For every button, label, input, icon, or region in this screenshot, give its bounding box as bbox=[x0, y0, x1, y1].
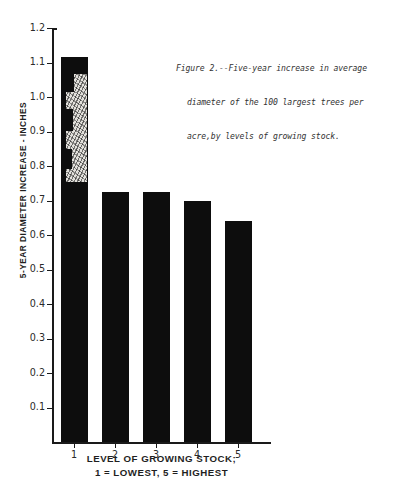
bar-1-defect-notch-b bbox=[66, 109, 73, 131]
y-tick-label: 0.3 bbox=[30, 332, 45, 343]
y-tick-label: 1.0 bbox=[30, 91, 45, 102]
y-tick-label: 0.2 bbox=[30, 367, 45, 378]
x-axis-title-line-1: LEVEL OF GROWING STOCK; bbox=[52, 452, 271, 466]
bar-level-2 bbox=[102, 192, 129, 442]
y-tick-label: 0.5 bbox=[30, 263, 45, 274]
bar-1-defect-notch-a bbox=[66, 74, 74, 92]
x-tick-3 bbox=[156, 442, 157, 448]
x-tick-5 bbox=[238, 442, 239, 448]
bar-level-1 bbox=[61, 57, 88, 442]
bar-level-5 bbox=[225, 221, 252, 442]
x-tick-2 bbox=[115, 442, 116, 448]
x-axis-title-line-2: 1 = LOWEST, 5 = HIGHEST bbox=[52, 466, 271, 480]
y-tick-label: 0.7 bbox=[30, 194, 45, 205]
plot-area: 1.2 1.1 1.0 0.9 0.8 0.7 0.6 0.5 bbox=[52, 28, 271, 442]
figure-bar-chart: Figure 2.--Five-year increase in average… bbox=[0, 0, 411, 499]
y-tick-label: 0.4 bbox=[30, 298, 45, 309]
y-tick-label: 0.8 bbox=[30, 160, 45, 171]
bar-level-4 bbox=[184, 201, 211, 443]
y-tick-label: 1.1 bbox=[30, 56, 45, 67]
y-axis-title: 5-YEAR DIAMETER INCREASE - INCHES bbox=[18, 102, 28, 278]
y-tick-label: 0.1 bbox=[30, 401, 45, 412]
x-tick-4 bbox=[197, 442, 198, 448]
y-tick-label: 1.2 bbox=[30, 22, 45, 33]
x-axis-title: LEVEL OF GROWING STOCK; 1 = LOWEST, 5 = … bbox=[52, 452, 271, 479]
y-tick-label: 0.9 bbox=[30, 125, 45, 136]
bar-level-3 bbox=[143, 192, 170, 442]
y-tick-label: 0.6 bbox=[30, 229, 45, 240]
x-tick-1 bbox=[74, 442, 75, 448]
bar-1-defect-notch-c bbox=[66, 149, 72, 169]
